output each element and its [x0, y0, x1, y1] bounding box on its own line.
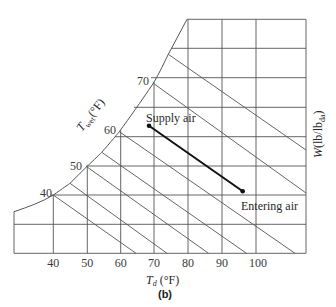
- svg-text:80: 80: [182, 256, 194, 270]
- svg-text:40: 40: [47, 256, 59, 270]
- entering-air-label: Entering air: [241, 199, 298, 213]
- svg-text:100: 100: [249, 256, 267, 270]
- process-line: [147, 123, 245, 193]
- supply-air-label: Supply air: [146, 111, 196, 125]
- svg-text:60: 60: [115, 256, 127, 270]
- wetbulb-tick-70: 70: [137, 74, 149, 88]
- x-tick-labels: 40 50 60 70 80 90 100: [47, 256, 267, 270]
- wetbulb-tick-40: 40: [40, 186, 52, 200]
- horizontal-gridlines: [14, 19, 306, 253]
- svg-text:90: 90: [216, 256, 228, 270]
- psychrometric-chart: Supply air Entering air 40 50 60 70 Twet…: [0, 0, 336, 307]
- entering-air-point: [240, 189, 245, 194]
- wetbulb-tick-60: 60: [104, 123, 116, 137]
- svg-text:70: 70: [148, 256, 160, 270]
- y-axis-label: W(lb/lbda): [311, 110, 327, 158]
- wet-bulb-lines: [53, 54, 306, 253]
- panel-caption: (b): [158, 288, 172, 300]
- wetbulb-tick-50: 50: [70, 159, 82, 173]
- x-axis-label: Td (°F): [146, 273, 179, 288]
- svg-text:50: 50: [81, 256, 93, 270]
